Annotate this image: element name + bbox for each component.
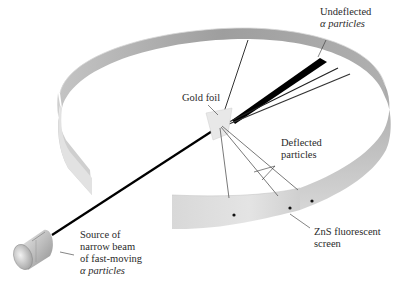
- label-line: Source of: [80, 229, 142, 241]
- label-gold-foil: Gold foil: [182, 92, 220, 104]
- label-deflected-particles: Deflected particles: [281, 137, 322, 161]
- label-line: α particles: [320, 18, 371, 30]
- undeflected-beam: [229, 58, 350, 124]
- zns-screen-front-segment: [172, 188, 300, 229]
- label-line: particles: [281, 149, 322, 161]
- label-line: Gold foil: [182, 92, 220, 104]
- label-line: screen: [314, 238, 381, 250]
- label-undeflected-particles: Undeflected α particles: [320, 6, 371, 30]
- label-line: ZnS fluorescent: [314, 226, 381, 238]
- zns-screen-left-segment: [57, 93, 92, 195]
- label-line: α particles: [80, 265, 142, 277]
- label-line: Undeflected: [320, 6, 371, 18]
- label-zns-screen: ZnS fluorescent screen: [314, 226, 381, 250]
- label-line: of fast-moving: [80, 253, 142, 265]
- label-line: Deflected: [281, 137, 322, 149]
- label-line: narrow beam: [80, 241, 142, 253]
- alpha-source: [10, 230, 53, 272]
- label-alpha-source: Source of narrow beam of fast-moving α p…: [80, 229, 142, 277]
- zns-screen-back-wall: [60, 28, 385, 108]
